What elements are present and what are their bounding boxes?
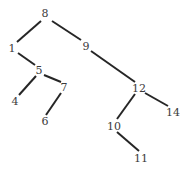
graph-figure: 819571241461011 bbox=[0, 0, 191, 171]
graph-node-label: 12 bbox=[132, 83, 146, 94]
node-layer: 819571241461011 bbox=[0, 0, 191, 171]
graph-node-label: 5 bbox=[36, 65, 43, 76]
graph-node-label: 11 bbox=[134, 153, 148, 164]
graph-node-label: 7 bbox=[61, 82, 68, 93]
graph-node-label: 10 bbox=[107, 121, 121, 132]
graph-node-label: 1 bbox=[9, 43, 16, 54]
graph-node-label: 8 bbox=[42, 8, 49, 19]
graph-node-label: 6 bbox=[42, 116, 49, 127]
graph-node-label: 9 bbox=[83, 41, 90, 52]
graph-node-label: 4 bbox=[12, 96, 19, 107]
graph-node-label: 14 bbox=[166, 107, 180, 118]
